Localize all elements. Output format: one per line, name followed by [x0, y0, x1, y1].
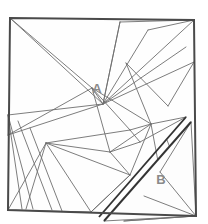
geometric-figure-container: A B — [0, 0, 208, 224]
region-label-a: A — [92, 81, 102, 96]
region-label-b: B — [156, 172, 165, 187]
dissection-diagram: A B — [0, 0, 208, 224]
